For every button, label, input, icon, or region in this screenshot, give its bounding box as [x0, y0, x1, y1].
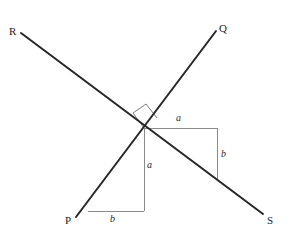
segment-label-right-rise-b: b [221, 149, 226, 159]
segment-label-lower-run-b: b [110, 214, 115, 224]
segment-label-left-rise-a: a [147, 160, 152, 170]
line-pq [76, 31, 216, 217]
diagram-canvas [0, 0, 293, 244]
geometry-diagram: R Q P S a b a b [0, 0, 293, 244]
line-rs [21, 33, 263, 214]
endpoint-label-q: Q [219, 23, 227, 34]
segment-label-upper-run-a: a [176, 113, 181, 123]
endpoint-label-s: S [267, 215, 273, 226]
endpoint-label-r: R [9, 26, 16, 37]
endpoint-label-p: P [65, 215, 71, 226]
